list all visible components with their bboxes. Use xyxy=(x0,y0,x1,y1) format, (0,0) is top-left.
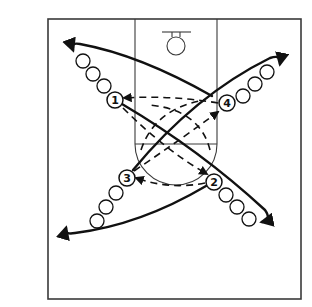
queue-player xyxy=(236,89,250,103)
queue-player xyxy=(219,188,233,202)
queue-player xyxy=(99,200,113,214)
drill-diagram: 1 2 3 4 xyxy=(0,0,312,307)
player-1: 1 xyxy=(107,92,123,108)
cut-3-to-top-right xyxy=(133,57,280,170)
queue-p4 xyxy=(236,65,274,103)
queue-player xyxy=(260,65,274,79)
player-label: 4 xyxy=(223,97,231,110)
pass-lines xyxy=(123,97,218,185)
player-4: 4 xyxy=(219,95,235,111)
queue-player xyxy=(97,79,111,93)
queue-player xyxy=(76,54,90,68)
free-throw-circle xyxy=(135,144,217,185)
pass-1-to-2 xyxy=(123,108,207,174)
queue-player xyxy=(242,212,256,226)
pass-3-to-4 xyxy=(134,112,218,171)
queue-p3 xyxy=(90,186,123,228)
queue-player xyxy=(230,200,244,214)
cut-1-to-bottom-right xyxy=(122,104,268,222)
player-2: 2 xyxy=(206,174,222,190)
basket xyxy=(162,32,191,55)
queue-player xyxy=(109,186,123,200)
queue-p2 xyxy=(219,188,256,226)
player-label: 2 xyxy=(210,176,218,189)
cut-2-to-bottom-left xyxy=(66,186,206,233)
queue-player xyxy=(86,67,100,81)
player-label: 3 xyxy=(123,172,131,185)
queue-p1 xyxy=(76,54,111,93)
rim-icon xyxy=(167,37,185,55)
queue-player xyxy=(90,214,104,228)
player-3: 3 xyxy=(119,170,135,186)
player-label: 1 xyxy=(111,94,119,107)
queue-player xyxy=(248,77,262,91)
